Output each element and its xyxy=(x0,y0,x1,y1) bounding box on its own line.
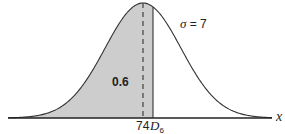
d6-subscript: 6 xyxy=(159,126,163,134)
shaded-area-region xyxy=(8,3,153,118)
sigma-value: = 7 xyxy=(186,17,206,31)
x-axis-label: x xyxy=(276,109,282,125)
d6-tick-label: D6 xyxy=(150,118,164,134)
normal-curve-plot xyxy=(0,0,285,134)
mean-tick-label: 74 xyxy=(136,119,149,133)
sigma-label: σ = 7 xyxy=(180,16,207,32)
d6-letter: D xyxy=(150,118,159,133)
shaded-area-value: 0.6 xyxy=(112,75,129,89)
